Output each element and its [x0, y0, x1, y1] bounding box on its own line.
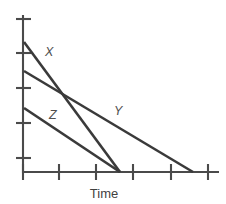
data-series-group	[24, 42, 193, 172]
axes-group	[23, 15, 219, 173]
series-label-y: Y	[114, 104, 124, 118]
chart-canvas: X Y Z Time	[0, 0, 226, 204]
series-label-z: Z	[48, 108, 57, 122]
series-label-x: X	[44, 45, 54, 59]
series-line-x	[24, 42, 120, 172]
series-line-z	[24, 108, 120, 172]
x-axis-title: Time	[90, 186, 118, 201]
